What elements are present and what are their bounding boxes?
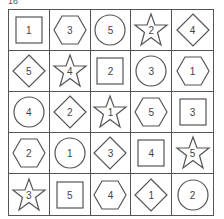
grid-cell: 1 (50, 133, 91, 174)
cell-number: 5 (9, 66, 49, 77)
grid-cell: 2 (9, 133, 50, 174)
grid-cell: 1 (131, 174, 172, 215)
grid-cell: 2 (172, 174, 213, 215)
cell-number: 2 (91, 66, 131, 77)
cell-number: 1 (50, 148, 90, 159)
grid-cell: 4 (172, 10, 213, 51)
puzzle-number-label: 16 (8, 0, 18, 6)
cell-number: 1 (172, 66, 213, 77)
grid-cell: 5 (172, 133, 213, 174)
cell-number: 2 (172, 189, 213, 200)
cell-number: 5 (131, 107, 171, 118)
grid-cell: 1 (9, 10, 50, 51)
grid-cell: 5 (91, 10, 132, 51)
cell-number: 5 (91, 25, 131, 36)
cell-number: 3 (91, 148, 131, 159)
cell-number: 3 (172, 107, 213, 118)
cell-number: 3 (50, 25, 90, 36)
cell-number: 1 (91, 107, 131, 118)
shape-grid: 1352454231421532134535412 (8, 9, 214, 216)
cell-number: 4 (9, 107, 49, 118)
cell-number: 2 (50, 107, 90, 118)
cell-number: 1 (9, 25, 49, 36)
grid-cell: 4 (50, 51, 91, 92)
cell-number: 4 (172, 25, 213, 36)
cell-number: 4 (50, 66, 90, 77)
grid-cell: 2 (131, 10, 172, 51)
cell-number: 2 (131, 25, 171, 36)
grid-cell: 3 (9, 174, 50, 215)
cell-number: 4 (91, 189, 131, 200)
grid-cell: 5 (9, 51, 50, 92)
cell-number: 1 (131, 189, 171, 200)
grid-cell: 3 (131, 51, 172, 92)
grid-cell: 2 (91, 51, 132, 92)
grid-cell: 1 (172, 51, 213, 92)
grid-cell: 1 (91, 92, 132, 133)
grid-cell: 2 (50, 92, 91, 133)
grid-cell: 4 (131, 133, 172, 174)
cell-number: 2 (9, 148, 49, 159)
grid-cell: 4 (91, 174, 132, 215)
grid-cell: 4 (9, 92, 50, 133)
cell-number: 5 (172, 148, 213, 159)
cell-number: 3 (131, 66, 171, 77)
cell-number: 3 (9, 189, 49, 200)
grid-cell: 5 (131, 92, 172, 133)
grid-cell: 3 (172, 92, 213, 133)
grid-cell: 5 (50, 174, 91, 215)
grid-cell: 3 (91, 133, 132, 174)
cell-number: 5 (50, 189, 90, 200)
grid-cell: 3 (50, 10, 91, 51)
cell-number: 4 (131, 148, 171, 159)
